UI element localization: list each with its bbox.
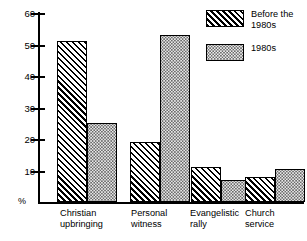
x-axis-category-label: Christian upbringing [60, 208, 103, 230]
y-axis-tick-label: 40 [9, 72, 35, 82]
bar [275, 169, 305, 202]
legend-label-1980s: 1980s [251, 43, 276, 54]
y-axis-tick-label: 60 [9, 9, 35, 19]
bar [130, 142, 160, 202]
bar [191, 167, 221, 202]
bar [245, 177, 275, 202]
legend-swatch-hatch-icon [206, 10, 244, 27]
legend-item-before-1980s: Before the 1980s [206, 10, 306, 34]
y-axis-tick-label: 10 [9, 167, 35, 177]
bar [57, 41, 87, 202]
y-axis-percent-label: % [18, 197, 26, 206]
x-axis-line [38, 202, 304, 204]
bar-chart: 605040302010 % Christian upbringingPerso… [0, 0, 307, 241]
legend-swatch-dotted-icon [206, 44, 244, 61]
bar [160, 35, 190, 202]
y-axis-tick-label: 50 [9, 41, 35, 51]
x-axis-category-label: Personal witness [131, 208, 167, 230]
legend-item-1980s: 1980s [206, 44, 306, 68]
y-axis-tick-label: 20 [9, 135, 35, 145]
y-axis-tick-label: 30 [9, 104, 35, 114]
chart-legend: Before the 1980s 1980s [206, 10, 306, 78]
legend-label-before-1980s: Before the 1980s [251, 9, 293, 30]
bar [87, 123, 117, 202]
x-axis-category-label: Evangelistic rally [190, 208, 239, 230]
x-axis-category-label: Church service [245, 208, 275, 230]
